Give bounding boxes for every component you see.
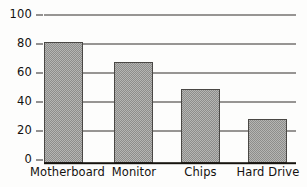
- x-label-monitor: Monitor: [104, 166, 164, 179]
- x-label-hard-drive: Hard Drive: [235, 166, 301, 179]
- bar-monitor: [114, 62, 153, 163]
- x-label-motherboard: Motherboard: [30, 166, 97, 179]
- x-axis-baseline: [44, 162, 296, 164]
- bar-hard-drive: [248, 119, 287, 163]
- x-label-chips: Chips: [173, 166, 228, 179]
- bar-chart: 100 80 60 40 20 0 Motherboard Monitor Ch…: [0, 0, 307, 187]
- bar-chips: [181, 89, 220, 163]
- plot-area: [0, 0, 307, 187]
- bar-motherboard: [44, 42, 83, 163]
